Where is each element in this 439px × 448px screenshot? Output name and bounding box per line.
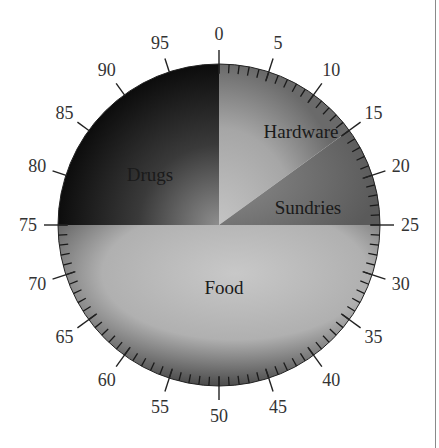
tick-label-75: 75 [19,215,37,235]
tick-label-40: 40 [322,370,340,390]
tick-label-10: 10 [322,60,340,80]
tick-label-50: 50 [210,406,228,426]
pie-chart: 05101520253035404550556065707580859095 H… [0,0,439,448]
tick-label-55: 55 [151,397,169,417]
tick-label-60: 60 [98,370,116,390]
right-border-line [435,0,436,448]
tick-label-80: 80 [28,156,46,176]
tick-label-20: 20 [392,156,410,176]
tick-label-5: 5 [274,33,283,53]
tick-label-15: 15 [365,103,383,123]
tick-label-30: 30 [392,274,410,294]
tick-label-0: 0 [215,24,224,44]
tick-label-35: 35 [365,327,383,347]
tick-label-45: 45 [269,397,287,417]
label-drugs: Drugs [127,164,173,185]
label-hardware: Hardware [264,121,339,142]
tick-label-95: 95 [151,33,169,53]
label-food: Food [204,277,244,298]
tick-label-70: 70 [28,274,46,294]
tick-label-90: 90 [98,60,116,80]
slice-food [58,225,380,386]
tick-label-85: 85 [55,103,73,123]
pie-slices [58,64,380,386]
slice-drugs [58,64,219,225]
tick-label-25: 25 [401,215,419,235]
label-sundries: Sundries [275,197,342,218]
tick-label-65: 65 [55,327,73,347]
